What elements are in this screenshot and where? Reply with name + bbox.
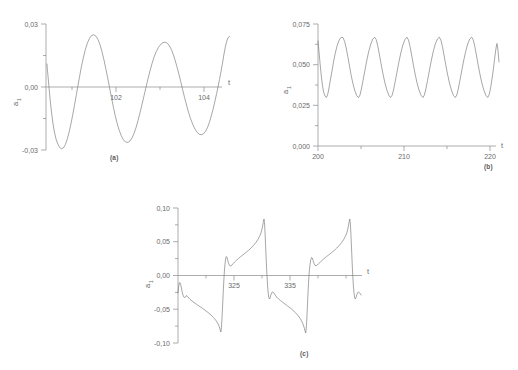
panel-c-plot: 0,10 0,05 0,00 -0,05 -0,10 325 335 t a 1 <box>130 188 390 363</box>
panel-a-xtick-label: 104 <box>198 94 210 101</box>
panel-b-x-axis-label: t <box>501 141 504 150</box>
panel-c-ytick-label: 0,05 <box>156 238 170 245</box>
panel-b-ytick-label: 0,050 <box>292 61 310 68</box>
panel-c-caption: (c) <box>300 350 309 357</box>
panel-b-y-axis-label: a 1 <box>281 86 292 94</box>
panel-b-caption: (b) <box>484 163 493 170</box>
panel-a-ytick-label: 0,00 <box>24 84 38 91</box>
panel-a-x-axis-label: t <box>228 78 231 87</box>
panel-a-ytick-label: 0,03 <box>24 21 38 28</box>
panel-a-caption: (a) <box>110 154 119 161</box>
panel-a-curve <box>47 35 230 149</box>
panel-b-ytick-label: 0,000 <box>292 143 310 150</box>
panel-a: 0,03 0,00 -0,03 102 104 t a 1 (a) <box>0 6 250 161</box>
panel-c: 0,10 0,05 0,00 -0,05 -0,10 325 335 t a 1… <box>130 188 390 363</box>
panel-b-ytick-label: 0,025 <box>292 102 310 109</box>
panel-c-curve <box>178 219 361 333</box>
panel-b-xtick-label: 210 <box>398 153 410 160</box>
panel-b-xtick-label: 200 <box>312 153 324 160</box>
panel-c-xtick-label: 325 <box>228 282 240 289</box>
panel-c-ytick-label: -0,10 <box>154 340 170 347</box>
panel-b-plot: 0,075 0,050 0,025 0,000 200 210 220 t a … <box>258 6 516 171</box>
panel-b-curve <box>318 37 499 97</box>
panel-b-xtick-label: 220 <box>484 153 496 160</box>
panel-a-y-axis-label: a 1 <box>11 98 22 106</box>
panel-c-ytick-label: 0,00 <box>156 272 170 279</box>
panel-c-xtick-label: 335 <box>284 282 296 289</box>
panel-c-x-axis-label: t <box>367 267 370 276</box>
panel-c-ytick-label: -0,05 <box>154 306 170 313</box>
panel-c-ytick-label: 0,10 <box>156 205 170 212</box>
panel-a-plot: 0,03 0,00 -0,03 102 104 t a 1 <box>0 6 250 161</box>
panel-a-y-axis-sub: 1 <box>16 98 22 101</box>
panel-b-ytick-label: 0,075 <box>292 21 310 28</box>
panel-b: 0,075 0,050 0,025 0,000 200 210 220 t a … <box>258 6 516 171</box>
panel-b-y-axis-sub: 1 <box>286 86 292 89</box>
panel-c-y-axis-sub: 1 <box>148 280 154 283</box>
page-footer-fragment <box>4 361 516 370</box>
panel-c-y-axis-label: a 1 <box>143 280 154 288</box>
panel-a-ytick-label: -0,03 <box>22 147 38 154</box>
